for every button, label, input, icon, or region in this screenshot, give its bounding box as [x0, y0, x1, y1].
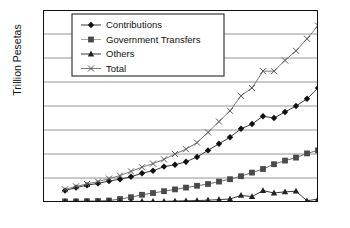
data-point — [194, 183, 200, 189]
data-point — [249, 121, 255, 127]
data-point — [139, 170, 145, 176]
data-point — [304, 36, 310, 42]
series-line — [65, 150, 318, 201]
data-point — [183, 146, 189, 152]
data-point — [282, 109, 288, 115]
data-point — [238, 173, 244, 179]
series-government-transfers — [62, 148, 318, 203]
data-point — [161, 156, 167, 162]
data-point — [260, 187, 266, 193]
data-point — [227, 176, 233, 182]
chart-figure: Trillion Pesetas 0246810121416 197519801… — [0, 0, 350, 228]
data-point — [150, 168, 156, 174]
data-point — [205, 147, 211, 153]
data-point — [128, 174, 134, 180]
data-point — [139, 192, 145, 198]
chart-legend: ContributionsGovernment TransfersOthersT… — [72, 14, 224, 76]
legend-marker — [88, 37, 94, 43]
legend-label: Government Transfers — [106, 34, 201, 45]
data-point — [73, 184, 79, 190]
legend-label: Others — [106, 48, 135, 59]
data-point — [117, 176, 123, 182]
series-line — [65, 191, 318, 202]
data-point — [249, 170, 255, 176]
data-point — [227, 108, 233, 114]
plot-area: 0246810121416 197519801985199019952000 C… — [43, 10, 318, 202]
data-point — [183, 159, 189, 165]
data-point — [238, 192, 244, 198]
data-point — [260, 166, 266, 172]
data-point — [293, 155, 299, 161]
series-contributions — [62, 85, 318, 194]
data-point — [205, 181, 211, 187]
data-point — [304, 151, 310, 157]
data-point — [271, 115, 277, 121]
data-point — [216, 141, 222, 147]
data-point — [172, 187, 178, 193]
data-point — [194, 154, 200, 160]
data-point — [128, 168, 134, 174]
data-point — [84, 182, 90, 188]
data-point — [249, 85, 255, 91]
series-line — [65, 88, 318, 191]
data-point — [183, 185, 189, 191]
legend-label: Total — [106, 63, 126, 74]
legend-label: Contributions — [106, 19, 162, 30]
data-point — [161, 163, 167, 169]
y-axis-label: Trillion Pesetas — [11, 0, 23, 120]
data-point — [194, 140, 200, 146]
data-point — [216, 119, 222, 125]
data-point — [150, 190, 156, 196]
data-point — [293, 188, 299, 194]
data-point — [139, 164, 145, 170]
data-point — [150, 161, 156, 167]
data-point — [172, 162, 178, 168]
data-point — [293, 103, 299, 109]
data-point — [271, 161, 277, 167]
data-point — [293, 48, 299, 54]
data-point — [216, 179, 222, 185]
data-point — [161, 188, 167, 194]
data-point — [260, 113, 266, 119]
data-point — [282, 158, 288, 164]
chart-svg: 0246810121416 197519801985199019952000 C… — [43, 10, 318, 202]
data-point — [238, 93, 244, 99]
